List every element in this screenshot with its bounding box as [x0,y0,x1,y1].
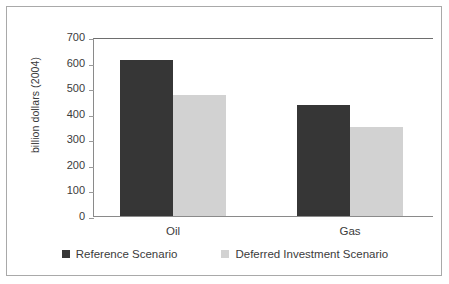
y-tick-label: 300 [67,133,85,145]
chart-frame: billion dollars (2004) 70060050040030020… [6,6,442,276]
y-tick-label: 0 [79,210,85,222]
legend-swatch-icon [221,250,229,258]
y-tick-mark [89,141,94,142]
y-tick-mark [89,39,94,40]
y-tick-label: 700 [67,31,85,43]
x-category-label-oil: Oil [133,225,213,237]
chart-legend: Reference ScenarioDeferred Investment Sc… [7,248,443,260]
y-tick-label: 500 [67,82,85,94]
bar-gas-series2 [350,127,403,217]
y-tick-mark [89,192,94,193]
chart-screenshot: billion dollars (2004) 70060050040030020… [0,0,449,284]
y-tick-mark [89,167,94,168]
legend-label: Reference Scenario [76,248,178,260]
legend-label: Deferred Investment Scenario [235,248,388,260]
y-tick-label: 100 [67,184,85,196]
bar-oil-series2 [173,95,226,216]
y-tick-label: 600 [67,57,85,69]
y-tick-mark [89,90,94,91]
legend-entry-2[interactable]: Deferred Investment Scenario [221,248,388,260]
legend-entry-1[interactable]: Reference Scenario [62,248,178,260]
bar-oil-series1 [120,60,173,216]
y-tick-mark [89,65,94,66]
plot-area: 7006005004003002001000 OilGas [93,38,433,217]
y-tick-mark [89,116,94,117]
x-category-label-gas: Gas [310,225,390,237]
y-tick-label: 400 [67,108,85,120]
y-axis-title: billion dollars (2004) [29,15,41,195]
bar-gas-series1 [297,105,350,216]
legend-swatch-icon [62,250,70,258]
y-tick-mark [89,218,94,219]
y-tick-label: 200 [67,159,85,171]
